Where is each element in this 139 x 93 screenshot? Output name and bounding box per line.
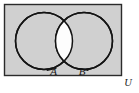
- universal-set-label: U: [124, 77, 133, 88]
- venn-diagram-canvas: A B U: [0, 0, 139, 93]
- set-b-label: B: [79, 65, 86, 77]
- set-a-label: A: [49, 65, 57, 77]
- venn-diagram-figure: A B U: [0, 0, 139, 93]
